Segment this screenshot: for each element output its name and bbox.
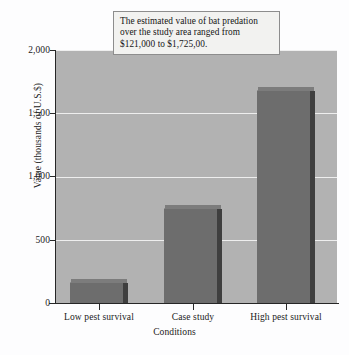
y-tick-label-0: 0 xyxy=(4,298,50,308)
x-tick-mark-low-pest-survival xyxy=(99,304,100,310)
bar-side-face xyxy=(217,209,222,303)
x-axis-line xyxy=(49,303,339,304)
y-tick-label-2000: 2,000 xyxy=(4,45,50,55)
bar-side-face xyxy=(123,283,128,303)
bar-case-study xyxy=(164,208,217,303)
y-axis-tick-labels: 2,000 1,500 1,000 500 0 xyxy=(4,0,50,355)
bar-top-face xyxy=(165,205,221,209)
annotation-textbox: The estimated value of bat predation ove… xyxy=(113,11,280,55)
annotation-line-2: over the study area ranged from xyxy=(120,27,274,38)
annotation-line-3: $121,000 to $1,725,00. xyxy=(120,39,274,50)
y-tick-label-1500: 1,500 xyxy=(4,108,50,118)
bar-high-pest-survival xyxy=(257,90,310,303)
x-tick-mark-case-study xyxy=(193,304,194,310)
x-tick-label-case-study: Case study xyxy=(141,311,245,323)
bar-low-pest-survival xyxy=(70,282,123,303)
annotation-line-1: The estimated value of bat predation xyxy=(120,16,274,27)
bar-top-face xyxy=(71,279,127,283)
x-tick-label-low-pest-survival: Low pest survival xyxy=(47,311,151,323)
plot-area xyxy=(56,50,337,303)
y-tick-label-1000: 1,000 xyxy=(4,171,50,181)
x-tick-mark-high-pest-survival xyxy=(286,304,287,310)
bar-top-face xyxy=(258,87,314,91)
bar-chart-figure: Value (thousands of U.S.$) 2,000 1,500 1… xyxy=(0,0,349,355)
y-axis-line xyxy=(55,50,56,304)
x-tick-label-high-pest-survival: High pest survival xyxy=(234,311,338,323)
y-tick-label-500: 500 xyxy=(4,235,50,245)
bar-side-face xyxy=(310,91,315,303)
x-axis-title: Conditions xyxy=(0,327,349,337)
